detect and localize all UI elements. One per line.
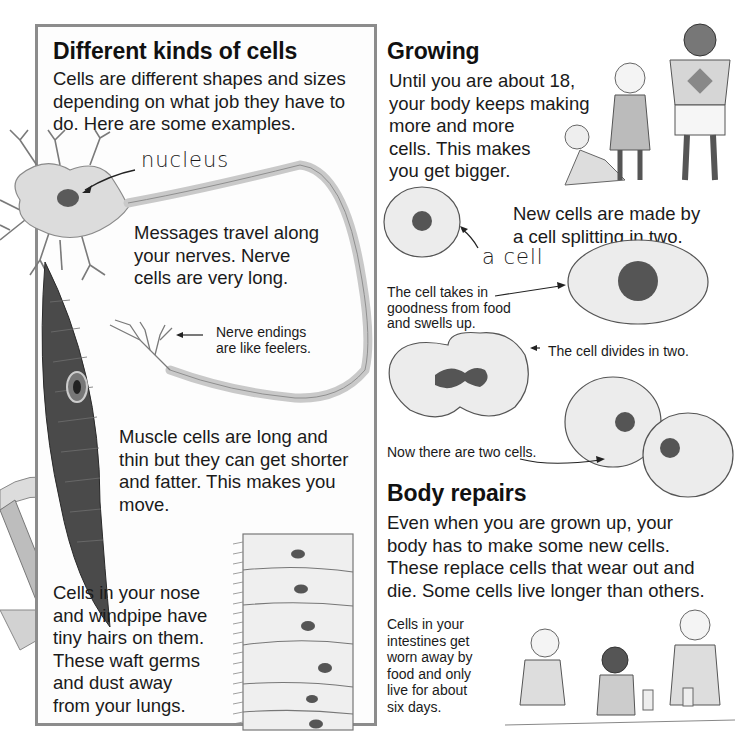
nucleus-shape [57, 189, 79, 207]
step-divide-caption: The cell divides in two. [548, 344, 689, 360]
muscle-text: Muscle cells are long and thin but they … [119, 426, 348, 516]
body-repairs-title: Body repairs [387, 480, 526, 507]
nerve-endings-caption: Nerve endings are like feelers. [216, 325, 311, 356]
panel-title: Different kinds of cells [53, 38, 297, 65]
children-growing-illustration [555, 0, 741, 190]
intro-text: Cells are different shapes and sizes dep… [53, 68, 346, 136]
growing-title: Growing [387, 38, 480, 65]
step-two-caption: Now there are two cells. [387, 445, 536, 461]
step-swell-caption: The cell takes in goodness from food and… [387, 285, 511, 332]
body-repairs-text: Even when you are grown up, your body ha… [387, 512, 705, 602]
children-eating-illustration [505, 605, 735, 732]
a-cell-label: a cell [482, 245, 544, 269]
nucleus-label: nucleus [141, 148, 229, 172]
nose-text: Cells in your nose and windpipe have tin… [53, 582, 207, 717]
muscle-cell-illustration [25, 262, 115, 632]
windpipe-cells-illustration [228, 532, 358, 732]
nerve-text: Messages travel along your nerves. Nerve… [134, 222, 319, 290]
intestine-text: Cells in your intestines get worn away b… [387, 616, 473, 715]
